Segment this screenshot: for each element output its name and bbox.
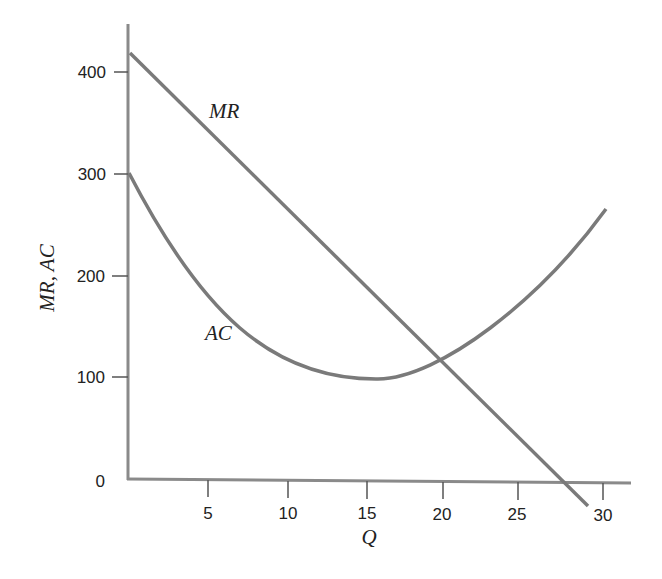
x-tick-15: 15 [358,504,377,523]
x-tick-20: 20 [433,505,452,524]
y-tick-100: 100 [77,368,105,387]
ac-label: AC [203,321,233,345]
y-tick-0: 0 [96,472,105,491]
chart: 400 300 200 100 0 5 10 15 20 25 30 Q MR,… [0,0,662,579]
x-tick-5: 5 [203,504,212,523]
mr-label: MR [208,99,239,123]
x-tick-25: 25 [508,505,527,524]
mr-line [130,53,588,506]
y-axis-label: MR, AC [35,243,59,312]
y-tick-200: 200 [77,267,105,286]
y-ticks [112,72,128,377]
ac-curve [129,173,606,379]
y-tick-300: 300 [78,165,106,184]
x-tick-30: 30 [594,506,613,525]
y-tick-400: 400 [78,63,106,82]
x-axis-label: Q [361,525,376,549]
x-tick-10: 10 [279,504,298,523]
x-axis [127,479,631,483]
